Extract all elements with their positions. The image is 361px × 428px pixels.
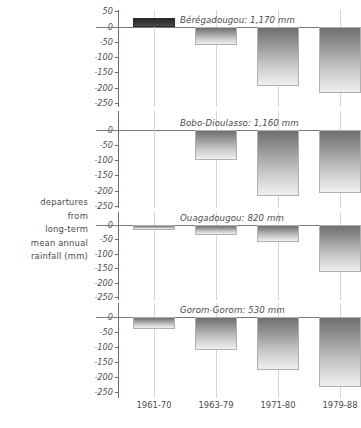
y-tick-label: -250 — [94, 97, 113, 109]
y-tick-label: -50 — [100, 326, 113, 338]
panel-label-beregadougou: Bérégadougou: 1,170 mm — [180, 15, 295, 25]
bar-1963-79[interactable] — [195, 27, 237, 45]
bar-1961-70[interactable] — [133, 225, 175, 230]
bar-1961-70[interactable] — [133, 317, 175, 329]
panel-label-ouagadougou: Ouagadougou: 820 mm — [180, 213, 284, 223]
y-tick-label: -150 — [94, 66, 113, 78]
y-axis-title-line-5: rainfall (mm) — [0, 250, 88, 264]
y-tick-label: -250 — [94, 386, 113, 398]
y-axis-title: departures from long-term mean annual ra… — [0, 196, 88, 264]
bar-1971-80[interactable] — [257, 130, 299, 196]
y-tick-label: -50 — [100, 139, 113, 151]
y-tick-label: -100 — [94, 341, 113, 353]
bar-1979-88[interactable] — [319, 317, 361, 387]
bar-1963-79[interactable] — [195, 130, 237, 160]
panel-label-gorom-gorom: Gorom-Gorom: 530 mm — [180, 305, 285, 315]
bar-1971-80[interactable] — [257, 225, 299, 242]
y-tick-label: -50 — [100, 233, 113, 245]
y-axis-title-line-3: long-term — [0, 223, 88, 237]
bar-1961-70[interactable] — [133, 18, 175, 27]
y-tick-label: -200 — [94, 277, 113, 289]
y-tick-label: -150 — [94, 356, 113, 368]
y-tick-label: -200 — [94, 82, 113, 94]
x-axis-label-1979-88: 1979-88 — [323, 400, 358, 410]
x-axis-labels: 1961-701963-791971-801979-88 — [118, 400, 352, 418]
bar-1979-88[interactable] — [319, 225, 361, 272]
y-tick-label: -200 — [94, 185, 113, 197]
bar-1971-80[interactable] — [257, 317, 299, 370]
y-tick-label: -50 — [100, 36, 113, 48]
bar-1963-79[interactable] — [195, 225, 237, 235]
y-tick-label: -150 — [94, 262, 113, 274]
bar-1963-79[interactable] — [195, 317, 237, 350]
bar-1971-80[interactable] — [257, 27, 299, 86]
bar-1979-88[interactable] — [319, 27, 361, 93]
bar-1979-88[interactable] — [319, 130, 361, 193]
y-tick-label: 50 — [103, 5, 113, 17]
x-axis-label-1971-80: 1971-80 — [261, 400, 296, 410]
plot-area — [118, 212, 344, 300]
y-axis-title-line-1: departures — [0, 196, 88, 210]
plot-area — [118, 303, 344, 398]
vertical-gridline-1961-70 — [154, 111, 155, 208]
panel-label-bobo-dioulasso: Bobo-Dioulasso: 1,160 mm — [180, 118, 299, 128]
panel-beregadougou: 500-50-100-150-200-250Bérégadougou: 1,17… — [96, 10, 344, 107]
y-tick-label: -200 — [94, 371, 113, 383]
panel-bobo-dioulasso: 0-50-100-150-200-250Bobo-Dioulasso: 1,16… — [96, 111, 344, 208]
x-axis-label-1961-70: 1961-70 — [137, 400, 172, 410]
y-axis-title-line-2: from — [0, 210, 88, 224]
y-axis-title-line-4: mean annual — [0, 237, 88, 251]
y-tick-label: -250 — [94, 291, 113, 303]
y-tick-label: -250 — [94, 200, 113, 212]
y-tick-label: -100 — [94, 154, 113, 166]
y-tick-label: -150 — [94, 169, 113, 181]
panel-gorom-gorom: 0-50-100-150-200-250Gorom-Gorom: 530 mm — [96, 303, 344, 398]
panel-ouagadougou: 0-50-100-150-200-250Ouagadougou: 820 mm — [96, 212, 344, 300]
y-tick-label: -100 — [94, 248, 113, 260]
y-tick-label: -100 — [94, 51, 113, 63]
x-axis-label-1963-79: 1963-79 — [199, 400, 234, 410]
